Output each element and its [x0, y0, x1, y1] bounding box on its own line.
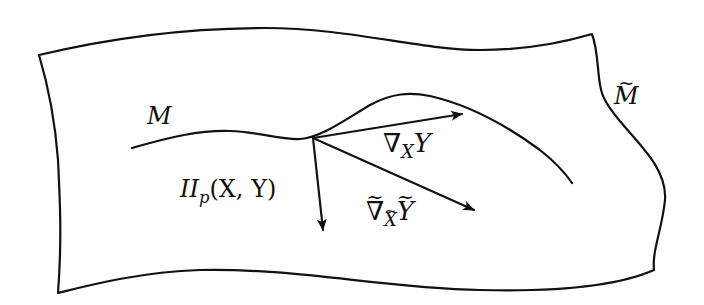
ambient-manifold-label: ~ M: [614, 84, 639, 108]
second-fundamental-form-label: IIp(X, Y): [180, 177, 276, 201]
nabla-icon: ∇: [383, 128, 401, 158]
ambient-surface-outline: [39, 28, 665, 293]
ii-arguments: (X, Y): [209, 175, 276, 203]
tilde-accent-icon: ~: [366, 187, 384, 208]
nabla-x-y-label: ∇XY: [383, 130, 431, 156]
ii-subscript: p: [199, 188, 209, 207]
ambient-nabla-label: ~ ∇ ~ X ~ Y: [366, 198, 414, 224]
tilde-accent-icon: ~: [614, 73, 639, 92]
submanifold-label-text: M: [147, 102, 172, 130]
ambient-label-tilde-group: ~ M: [614, 84, 639, 108]
ambient-nabla-subscript-group: ~ X: [384, 212, 397, 230]
submanifold-curve: [132, 94, 572, 183]
tilde-accent-icon: ~: [384, 204, 397, 218]
nabla-argument: Y: [414, 128, 431, 158]
ambient-nabla-argument-group: ~ Y: [397, 198, 414, 224]
diagram-canvas: [0, 0, 704, 305]
ii-symbol: II: [180, 175, 199, 203]
tilde-accent-icon: ~: [397, 187, 414, 208]
vector-second-fundamental-form: [313, 138, 323, 230]
ambient-nabla-group: ~ ∇: [366, 198, 384, 224]
nabla-subscript: X: [401, 142, 414, 162]
submanifold-label: M: [147, 104, 172, 128]
